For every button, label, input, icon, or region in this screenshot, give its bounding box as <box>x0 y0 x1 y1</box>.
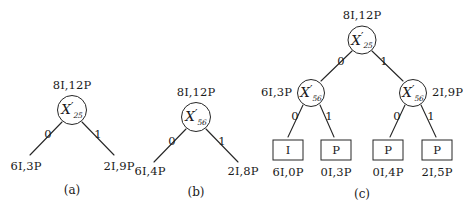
node-symbol: X <box>61 101 71 117</box>
panel-a-edge-label-0: 0 <box>44 129 51 141</box>
node-subscript: 56 <box>414 94 423 103</box>
node-symbol: X <box>300 84 310 100</box>
panel-b-root-node: X′56 <box>181 102 211 132</box>
panel-c-root-edge-label-0: 0 <box>337 56 344 68</box>
node-symbol: X <box>402 84 412 100</box>
panel-b-leaf-label-1: 2I,8P <box>227 166 258 178</box>
panel-c-leaf-box-3: P <box>422 140 453 161</box>
panel-a-root-node-text: X′25 <box>61 101 82 119</box>
panel-a-edge-label-1: 1 <box>94 129 101 141</box>
panel-c-leaf-box-1: P <box>321 140 352 161</box>
panel-c-root-node: X′25 <box>348 26 377 55</box>
panel-c-right-edge-label-0: 0 <box>393 111 400 123</box>
panel-c-root-edge-label-1: 1 <box>380 56 387 68</box>
panel-c-leaf-box-text-2: P <box>384 144 392 156</box>
panel-c-caption: (c) <box>354 188 370 200</box>
panel-c-leaf-label-0: 6I,0P <box>272 167 303 179</box>
node-subscript: 25 <box>73 111 82 120</box>
panel-a-leaf-label-1: 2I,9P <box>103 161 134 173</box>
panel-b-edge-label-0: 0 <box>168 136 175 148</box>
panel-b-leaf-label-0: 6I,4P <box>134 166 165 178</box>
panel-c-leaf-box-0: I <box>273 140 304 161</box>
figure-canvas: 8I,12P X′25 0 1 6I,3P 2I,9P (a) 8I,12P X… <box>0 0 463 206</box>
panel-c-left-node-side-label: 6I,3P <box>261 87 292 99</box>
panel-c-leaf-box-text-0: I <box>286 144 291 156</box>
panel-c-leaf-label-1: 0I,3P <box>320 167 351 179</box>
panel-c-leaf-label-2: 0I,4P <box>372 167 403 179</box>
panel-b-caption: (b) <box>187 186 204 198</box>
panel-c-right-node-text: X′56 <box>402 84 423 102</box>
panel-c-right-edge-label-1: 1 <box>427 111 434 123</box>
panel-a-root-node: X′25 <box>57 95 87 125</box>
panel-b-root-top-label: 8I,12P <box>177 87 216 99</box>
node-symbol: X <box>351 31 361 47</box>
panel-c-left-node-text: X′56 <box>300 84 321 102</box>
node-subscript: 56 <box>312 94 321 103</box>
panel-c-leaf-label-3: 2I,5P <box>421 167 452 179</box>
node-subscript: 56 <box>197 118 206 127</box>
panel-c-right-internal-node: X′56 <box>399 79 427 107</box>
panel-c-leaf-box-2: P <box>373 140 404 161</box>
panel-c-leaf-box-text-3: P <box>433 144 441 156</box>
panel-b-edge-label-1: 1 <box>218 136 225 148</box>
panel-c-leaf-box-text-1: P <box>332 144 340 156</box>
panel-c-right-node-side-label: 2I,9P <box>432 87 463 99</box>
panel-c-root-top-label: 8I,12P <box>343 10 382 22</box>
panel-c-left-edge-label-0: 0 <box>291 111 298 123</box>
panel-c-root-node-text: X′25 <box>351 31 372 49</box>
panel-c-left-edge-label-1: 1 <box>325 111 332 123</box>
panel-b-root-node-text: X′56 <box>185 108 206 126</box>
node-symbol: X <box>185 108 195 124</box>
node-subscript: 25 <box>363 41 372 50</box>
panel-a-leaf-label-0: 6I,3P <box>10 161 41 173</box>
panel-a-root-top-label: 8I,12P <box>53 80 92 92</box>
panel-c-left-internal-node: X′56 <box>297 79 325 107</box>
panel-a-caption: (a) <box>64 184 81 196</box>
